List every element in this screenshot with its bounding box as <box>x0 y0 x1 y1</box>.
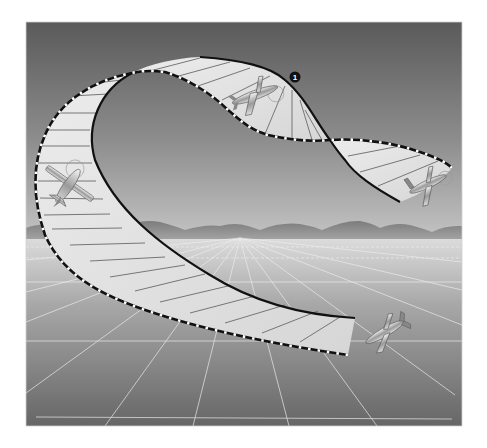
maneuver-illustration: 1 <box>0 0 487 448</box>
step-marker-1: 1 <box>290 72 301 83</box>
step-marker-1-label: 1 <box>293 73 298 82</box>
